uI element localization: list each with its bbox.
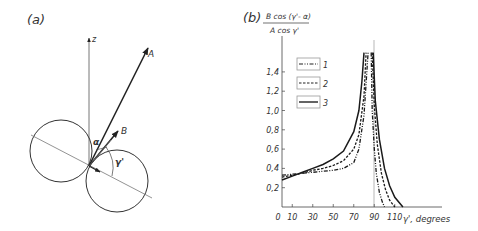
x-tick-label: 10 [287,213,297,222]
curve-series-3 [282,53,364,180]
vector-a-arrow [89,48,148,166]
vector-a-label: A [147,49,154,59]
legend-item-3: 3 [297,96,328,108]
legend: 1 2 3 [297,58,328,108]
x-tick-label: 30 [308,213,318,222]
y-tick-label: 1,0 [266,107,279,116]
y-tick-label: 0,4 [266,164,279,173]
legend-item-1: 1 [297,58,328,70]
legend-label-3: 3 [323,99,328,108]
ylabel-denominator: A cos γ' [269,26,299,35]
y-tick-label: 0,8 [266,126,279,135]
alpha-label: α [93,137,100,147]
tangent-arrow [89,166,100,172]
panel-b-chart: (b) B cos (γ'- α) A cos γ' 0,20,40,60,81… [243,10,451,224]
curve-series-2 [372,53,395,207]
gamma-label: γ' [115,157,124,167]
z-axis-label: z [91,35,97,44]
y-tick-label: 1,2 [266,87,279,96]
x-tick-label: 0 [275,213,280,222]
panel-a-label: (a) [27,12,45,27]
curve-series-1 [282,53,368,176]
x-axis-label: γ', degrees [403,214,451,224]
x-tick-label: 90 [369,213,379,222]
legend-label-2: 2 [323,80,328,89]
x-tick-label: 70 [349,213,359,222]
x-tick-label: 50 [328,213,338,222]
x-tick-label: 110 [387,213,402,222]
y-tick-label: 0,6 [266,145,279,154]
curve-series-3 [373,53,403,207]
legend-item-2: 2 [297,77,328,89]
figure-canvas: (a) z A B α γ' (b) B cos (γ'- α) A cos γ… [0,0,478,231]
panel-a-diagram: (a) z A B α γ' [27,12,154,212]
ylabel-numerator: B cos (γ'- α) [266,12,311,21]
legend-label-1: 1 [323,61,328,70]
y-tick-label: 0,2 [266,184,279,193]
panel-b-label: (b) [243,10,261,25]
y-tick-label: 1,4 [266,68,279,77]
vector-b-label: B [121,126,127,136]
curves [282,53,403,207]
curve-series-2 [282,53,366,178]
